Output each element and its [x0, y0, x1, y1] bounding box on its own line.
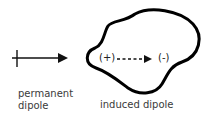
permanent-dipole-label-line2: dipole	[18, 100, 49, 112]
positive-charge-label: (+)	[99, 52, 115, 63]
permanent-dipole-label-line1: permanent	[18, 88, 73, 100]
negative-charge-label: (-)	[158, 52, 169, 63]
induced-dipole-label: induced dipole	[100, 99, 174, 111]
diagram-canvas: (+) (-) permanent dipole induced dipole	[0, 0, 210, 118]
dipole-arrow-icon	[12, 50, 68, 67]
dashed-arrow-icon	[117, 55, 152, 63]
